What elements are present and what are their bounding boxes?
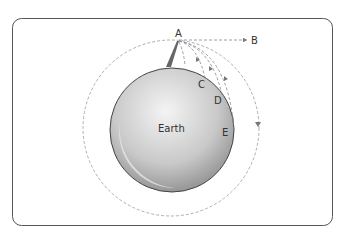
label-c: C — [198, 79, 205, 90]
label-d: D — [214, 95, 222, 106]
cannonball-diagram: A B C D E Earth — [0, 0, 343, 237]
label-e: E — [222, 127, 228, 138]
label-b: B — [251, 35, 258, 46]
label-a: A — [175, 28, 182, 39]
label-earth: Earth — [158, 123, 185, 134]
